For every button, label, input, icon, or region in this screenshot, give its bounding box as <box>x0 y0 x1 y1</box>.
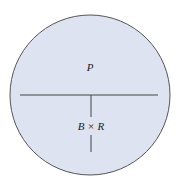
region-label-top: P <box>86 61 94 73</box>
region-label-bottom: B × R <box>78 120 105 132</box>
partition-diagram: P B × R <box>0 0 179 186</box>
